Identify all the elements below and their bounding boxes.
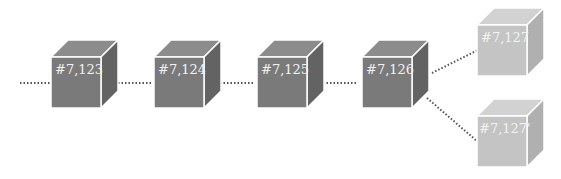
- block-7126: #7,126: [362, 40, 429, 108]
- block-label: #7,127': [479, 121, 531, 136]
- block-7123: #7,123: [51, 40, 118, 108]
- block-7127-prime: #7,127': [477, 99, 544, 167]
- block-label: #7,126: [366, 62, 414, 77]
- block-7125: #7,125: [257, 40, 324, 108]
- block-label: #7,127: [481, 30, 529, 45]
- block-label: #7,123: [55, 62, 103, 77]
- block-label: #7,125: [261, 62, 309, 77]
- connector-b4-b6: [427, 98, 478, 142]
- blockchain-diagram: #7,123 #7,124 #7,125 #7,126 #7,127 #7,12…: [0, 0, 561, 179]
- block-7124: #7,124: [154, 40, 221, 108]
- block-label: #7,124: [158, 62, 206, 77]
- connector-b4-b5: [432, 50, 478, 73]
- block-7127: #7,127: [477, 8, 544, 76]
